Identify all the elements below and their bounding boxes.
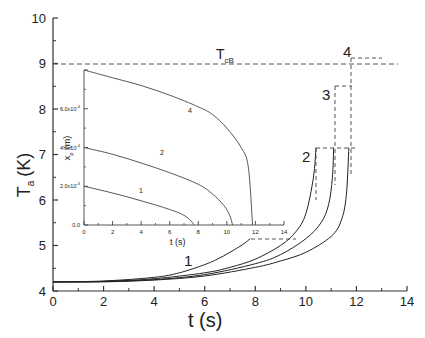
curve-4 [53, 148, 349, 282]
main-y-tick-label: 8 [39, 102, 46, 117]
inset-x-tick-label: 4 [139, 229, 143, 235]
inset-x-tick-label: 0 [82, 229, 86, 235]
curve-label-2: 2 [302, 148, 310, 165]
main-x-tick-label: 2 [100, 294, 107, 309]
inset-plot: 02468101214 0.02.0x10-44.0x10-46.0x10-4 … [60, 70, 288, 247]
main-y-tick-label: 7 [39, 147, 46, 162]
main-x-tick-label: 8 [252, 294, 259, 309]
main-y-tick-label: 6 [39, 193, 46, 208]
inset-axes [84, 70, 284, 225]
curve-label-4: 4 [343, 43, 351, 60]
inset-y-tick-label: 2.0x10-4 [60, 181, 81, 189]
chart: 02468101214 45678910 t (s) Ta(K) TcB 1 2… [0, 0, 425, 338]
inset-curve-label-4: 4 [188, 107, 192, 114]
main-x-tick-label: 4 [151, 294, 158, 309]
inset-x-ticks: 02468101214 [82, 221, 288, 235]
curve-1 [53, 239, 250, 282]
main-x-tick-label: 12 [349, 294, 363, 309]
main-x-tick-label: 0 [49, 294, 56, 309]
main-x-tick-label: 14 [400, 294, 414, 309]
main-y-tick-label: 5 [39, 238, 46, 253]
inset-x-tick-label: 6 [168, 229, 172, 235]
inset-x-tick-label: 14 [281, 229, 288, 235]
inset-curve-label-2: 2 [160, 149, 164, 156]
main-x-tick-label: 10 [299, 294, 313, 309]
main-y-tick-label: 4 [39, 284, 46, 299]
curve-3 [53, 148, 334, 282]
main-y-tick-label: 9 [39, 56, 46, 71]
inset-curve-2 [84, 148, 233, 226]
main-x-ticks: 02468101214 [49, 286, 414, 309]
main-x-axis-label: t (s) [188, 309, 222, 331]
inset-x-tick-label: 10 [224, 229, 231, 235]
inset-x-tick-label: 12 [252, 229, 259, 235]
tcb-label: TcB [216, 46, 234, 65]
main-y-tick-label: 10 [32, 11, 46, 26]
curve-label-3: 3 [322, 86, 330, 103]
curve-label-1: 1 [184, 252, 192, 269]
inset-y-tick-label: 6.0x10-4 [60, 104, 81, 112]
svg-text:Ta(K): Ta(K) [14, 153, 36, 198]
inset-x-tick-label: 8 [197, 229, 201, 235]
main-y-axis-label: Ta(K) [14, 153, 36, 198]
main-x-tick-label: 6 [201, 294, 208, 309]
inset-y-tick-label: 0.0 [72, 222, 80, 228]
main-curves [53, 148, 349, 282]
inset-x-tick-label: 2 [111, 229, 115, 235]
inset-curves [84, 70, 253, 225]
inset-curve-4 [84, 70, 253, 225]
end-markers [251, 58, 382, 239]
inset-x-axis-label: t (s) [170, 237, 186, 247]
main-y-ticks: 45678910 [32, 11, 58, 299]
inset-curve-label-1: 1 [139, 187, 143, 194]
